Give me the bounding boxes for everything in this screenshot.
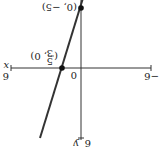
svg-text:, 0): , 0) [30, 51, 47, 62]
line-graph: 0 −6 6 x 6 y (0, −5) ( 5 3 , 0) [0, 0, 161, 150]
origin-label: 0 [71, 70, 77, 81]
chart-area: 0 −6 6 x 6 y (0, −5) ( 5 3 , 0) [0, 0, 161, 150]
y-intercept-point [78, 5, 84, 11]
x-intercept-point [59, 65, 65, 71]
y-tick-label: 6 [85, 138, 91, 149]
y-axis-label: y [73, 139, 80, 150]
y-intercept-label: (0, −5) [42, 2, 77, 13]
svg-text:(: ( [54, 51, 58, 62]
x-axis-label: x [3, 61, 9, 72]
x-neg-label: −6 [144, 71, 159, 82]
x-intercept-label: ( 5 3 , 0) [30, 48, 58, 67]
